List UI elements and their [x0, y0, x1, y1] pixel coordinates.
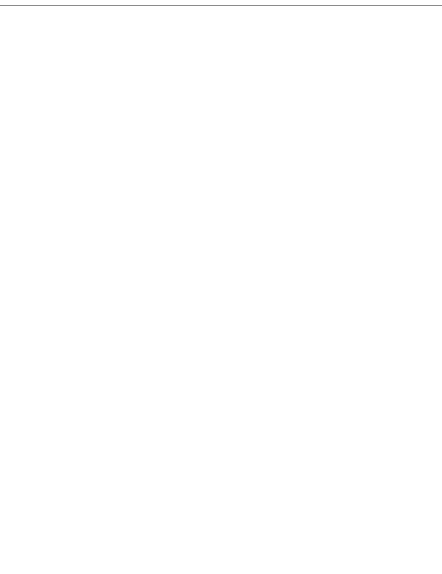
- figure-page: [0, 0, 442, 574]
- pma-age-chart-svg: [0, 293, 442, 574]
- top-horizontal-rule: [0, 5, 442, 6]
- pma-age-chart: [0, 293, 442, 574]
- postnatal-age-chart: [0, 10, 442, 290]
- postnatal-age-chart-svg: [0, 10, 442, 290]
